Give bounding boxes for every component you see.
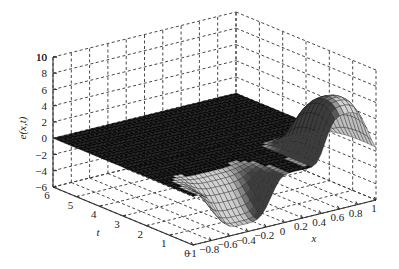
z-axis-label: e(x,t) — [16, 116, 29, 139]
t-tick — [170, 234, 173, 235]
x-tick-label: −1 — [185, 247, 197, 259]
surface-plot: −6−4−20246810100123456−1−0.8−0.6−0.4−0.2… — [0, 0, 399, 269]
x-tick-label: 0 — [280, 225, 286, 237]
z-tick-label: 0 — [42, 132, 48, 144]
t-tick-label: 4 — [91, 208, 97, 220]
t-tick-label: 5 — [68, 199, 74, 211]
grid-line — [236, 12, 376, 70]
t-tick — [123, 215, 126, 216]
t-tick-label: 3 — [114, 218, 120, 230]
x-tick-label: 0.4 — [312, 216, 326, 228]
t-tick-label: 2 — [138, 228, 144, 240]
t-tick — [76, 196, 79, 197]
z-tick-label: 2 — [42, 116, 48, 128]
z-tick-label: 6 — [42, 84, 48, 96]
x-tick-label: −0.2 — [254, 229, 274, 241]
x-axis-label: x — [311, 232, 317, 244]
x-tick-label: 0.6 — [331, 211, 345, 223]
t-tick-label: 1 — [161, 237, 167, 249]
t-tick — [146, 225, 149, 226]
grid-line — [236, 28, 376, 86]
surface-mesh — [53, 93, 376, 226]
z-tick-label: −4 — [35, 165, 47, 177]
x-tick-label: 0.2 — [294, 220, 308, 232]
z-tick-label: 4 — [42, 100, 48, 112]
z-tick-label: 8 — [42, 67, 48, 79]
z-tick-label: 10 — [36, 51, 48, 63]
t-tick-label: 6 — [44, 189, 50, 201]
t-tick — [100, 205, 103, 206]
z-tick-label: −2 — [35, 149, 47, 161]
t-axis-label: t — [96, 226, 100, 238]
x-tick-label: 1 — [371, 202, 377, 214]
x-tick-label: 0.8 — [349, 207, 363, 219]
